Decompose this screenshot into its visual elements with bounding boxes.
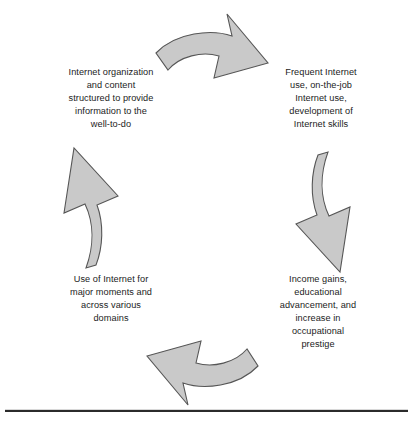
arrow-right (296, 152, 350, 272)
cycle-diagram: Internet organization and content struct… (0, 0, 414, 421)
stage-label-use-domains: Use of Internet for major moments and ac… (44, 273, 178, 325)
stage-label-frequent-use: Frequent Internet use, on-the-job Intern… (262, 66, 380, 131)
arrow-left (64, 148, 118, 268)
stage-label-income-gains: Income gains, educational advancement, a… (258, 273, 378, 351)
stage-label-organization: Internet organization and content struct… (44, 66, 178, 131)
cycle-arrows-group (0, 0, 414, 421)
arrow-bottom (147, 341, 258, 405)
bottom-divider-rule (5, 409, 408, 412)
